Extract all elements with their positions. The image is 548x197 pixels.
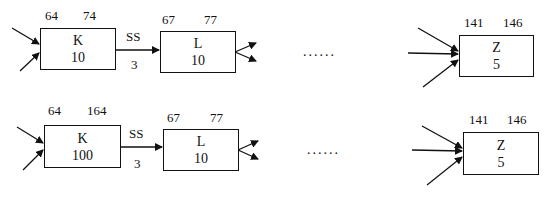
node-name: Z [497, 137, 506, 154]
node-value: 5 [498, 154, 505, 171]
ellipsis: ...... [307, 142, 340, 158]
l-label-start: 67 [162, 13, 175, 26]
node-name: K [73, 32, 83, 49]
node-z: Z 5 [463, 132, 539, 175]
node-name: Z [492, 39, 501, 56]
node-k: K 100 [44, 125, 121, 168]
node-value: 10 [191, 52, 205, 69]
z-label-end: 146 [507, 113, 527, 126]
node-l: L 10 [163, 129, 239, 171]
node-value: 10 [71, 49, 85, 66]
edge-weight: 3 [131, 58, 138, 71]
z-label-end: 146 [503, 16, 523, 29]
k-label-start: 64 [45, 9, 58, 22]
edge-label: SS [129, 127, 143, 140]
node-name: K [77, 130, 87, 147]
l-label-start: 67 [167, 111, 180, 124]
k-label-start: 64 [48, 104, 61, 117]
node-z: Z 5 [459, 35, 534, 77]
k-label-end: 164 [87, 104, 107, 117]
l-label-end: 77 [210, 111, 223, 124]
k-label-end: 74 [83, 9, 96, 22]
z-label-start: 141 [464, 16, 484, 29]
node-value: 100 [72, 147, 93, 164]
z-label-start: 141 [469, 113, 489, 126]
edge-label: SS [126, 30, 140, 43]
node-l: L 10 [160, 31, 236, 73]
ellipsis: ...... [303, 44, 336, 60]
l-label-end: 77 [204, 13, 217, 26]
node-name: L [194, 35, 203, 52]
node-name: L [197, 133, 206, 150]
node-k: K 10 [40, 28, 116, 70]
edge-weight: 3 [134, 157, 141, 170]
node-value: 10 [194, 150, 208, 167]
node-value: 5 [493, 56, 500, 73]
